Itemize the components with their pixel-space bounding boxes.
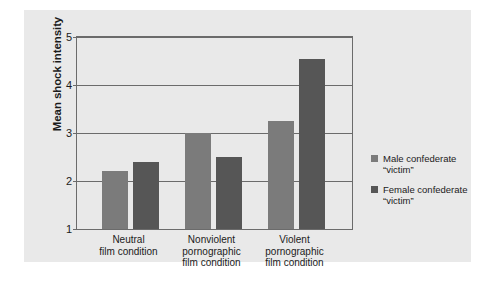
bar-male-violent <box>268 121 294 229</box>
y-tick-label-2: 2 <box>66 175 72 187</box>
y-tick-label-3: 3 <box>66 127 72 139</box>
legend-label-male-line2: “victim” <box>383 164 469 175</box>
y-tick-label-5: 5 <box>66 31 72 43</box>
chart-legend: Male confederate “victim” Female confede… <box>371 153 469 215</box>
bar-female-nonviolent <box>216 157 242 229</box>
legend-swatch-female-icon <box>371 186 378 193</box>
plot-area: 5 4 3 2 1 <box>76 36 353 230</box>
y-axis-title: Mean shock intensity <box>51 4 69 144</box>
y-tick-label-4: 4 <box>66 79 72 91</box>
bar-female-violent <box>299 59 325 229</box>
legend-item-male: Male confederate “victim” <box>371 153 469 175</box>
legend-label-female-line1: Female confederate <box>383 184 468 195</box>
bar-female-neutral <box>133 162 159 229</box>
bar-male-nonviolent <box>185 133 211 229</box>
legend-label-female-line2: “victim” <box>383 195 469 206</box>
chart-figure: Mean shock intensity 5 4 3 2 1 <box>24 10 471 262</box>
y-tick-label-1: 1 <box>66 223 72 235</box>
gridline-5: 5 <box>77 37 352 38</box>
legend-item-female: Female confederate “victim” <box>371 184 469 206</box>
x-axis-group-label-violent: Violent pornographic film condition <box>242 234 347 269</box>
bar-male-neutral <box>102 171 128 229</box>
gridline-1: 1 <box>77 229 352 230</box>
legend-label-male-line1: Male confederate <box>383 153 456 164</box>
legend-swatch-male-icon <box>371 155 378 162</box>
